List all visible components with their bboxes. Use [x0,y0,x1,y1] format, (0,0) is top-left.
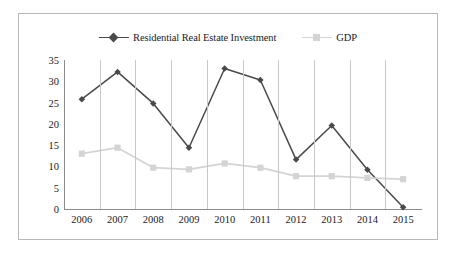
x-axis-tick: 2008 [143,214,164,225]
gridline-vertical [207,60,208,209]
data-point-square [150,165,156,171]
x-axis-tick: 2010 [214,214,235,225]
gridline-vertical [135,60,136,209]
gridline-vertical [314,60,315,209]
data-point-square [79,151,85,157]
chart-legend: Residential Real Estate Investment GDP [19,28,437,46]
y-axis-tick: 25 [49,97,60,108]
x-axis-line [64,209,422,210]
data-point-square [186,166,192,172]
data-point-square [222,160,228,166]
x-axis-tick: 2009 [178,214,199,225]
legend-label-series-2: GDP [336,32,357,43]
data-point-diamond [257,77,264,84]
y-axis-tick-labels: 05101520253035 [35,54,59,215]
y-axis-tick: 35 [49,55,60,66]
data-point-square [293,173,299,179]
x-axis-tick: 2015 [393,214,414,225]
legend-square-marker [313,34,320,41]
gridline-vertical [100,60,101,209]
x-axis-tick: 2011 [250,214,271,225]
x-axis-tick-labels: 2006200720082009201020112012201320142015 [64,214,421,232]
y-axis-tick: 0 [54,204,59,215]
gridline-vertical [350,60,351,209]
y-axis-tick: 15 [49,140,60,151]
gridline-vertical [278,60,279,209]
y-axis-tick: 10 [49,161,60,172]
legend-diamond-marker [109,32,119,42]
x-axis-tick: 2013 [321,214,342,225]
y-axis-tick: 5 [54,182,59,193]
data-point-square [364,175,370,181]
y-axis-tick: 20 [49,118,60,129]
x-axis-tick: 2007 [107,214,128,225]
x-axis-tick: 2012 [286,214,307,225]
y-axis-tick: 30 [49,76,60,87]
x-axis-tick: 2006 [71,214,92,225]
data-point-square [257,165,263,171]
plot-area [64,60,421,209]
legend-label-series-1: Residential Real Estate Investment [133,32,276,43]
legend-key-square-icon [302,32,332,43]
gridline-vertical [171,60,172,209]
gridline-vertical [243,60,244,209]
data-point-diamond [221,65,228,72]
x-axis-tick: 2014 [357,214,378,225]
data-point-square [400,176,406,182]
chart-figure: Residential Real Estate Investment GDP 0… [18,13,438,240]
gridline-vertical [385,60,386,209]
data-point-square [114,145,120,151]
legend-entry-residential-real-estate-investment: Residential Real Estate Investment [99,32,276,43]
legend-entry-gdp: GDP [302,32,357,43]
legend-key-diamond-icon [99,32,129,43]
data-point-square [329,173,335,179]
